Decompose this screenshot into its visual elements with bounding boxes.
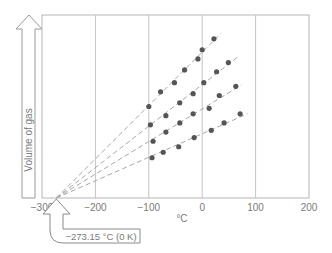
data-point [158, 89, 163, 94]
data-point [214, 69, 219, 74]
data-point [191, 111, 196, 116]
data-point [200, 47, 205, 52]
plot-frame [42, 15, 309, 198]
data-point [195, 56, 200, 61]
data-point [192, 135, 197, 140]
data-point [182, 67, 187, 72]
x-tick-label: 200 [301, 202, 318, 213]
x-tick-label: 100 [247, 202, 264, 213]
data-point [148, 122, 153, 127]
data-point [201, 80, 206, 85]
data-point [146, 104, 151, 109]
data-points [146, 36, 243, 160]
data-point [207, 106, 212, 111]
charles-law-chart: Volume of gas −300−200−1000100200 °C −27… [0, 0, 332, 253]
fit-line [56, 56, 238, 198]
data-point [209, 128, 214, 133]
data-point [221, 120, 226, 125]
data-point [177, 100, 182, 105]
fit-lines [56, 33, 247, 198]
data-point [161, 150, 166, 155]
data-point [163, 130, 168, 135]
x-tick-labels: −300−200−1000100200 [31, 202, 318, 213]
data-point [172, 80, 177, 85]
data-point [233, 84, 238, 89]
data-point [177, 120, 182, 125]
data-point [163, 113, 168, 118]
x-tick-label: −200 [84, 202, 107, 213]
x-tick-label: 0 [199, 202, 205, 213]
data-point [226, 60, 231, 65]
data-point [176, 144, 181, 149]
data-point [191, 91, 196, 96]
data-point [149, 155, 154, 160]
data-point [238, 111, 243, 116]
absolute-zero-callout-text: −273.15 °C (0 K) [65, 231, 136, 242]
y-axis-label: Volume of gas [23, 108, 34, 171]
data-point [217, 93, 222, 98]
x-axis-label: °C [176, 213, 187, 224]
data-point [150, 139, 155, 144]
data-point [211, 36, 216, 41]
x-tick-label: −100 [138, 202, 161, 213]
